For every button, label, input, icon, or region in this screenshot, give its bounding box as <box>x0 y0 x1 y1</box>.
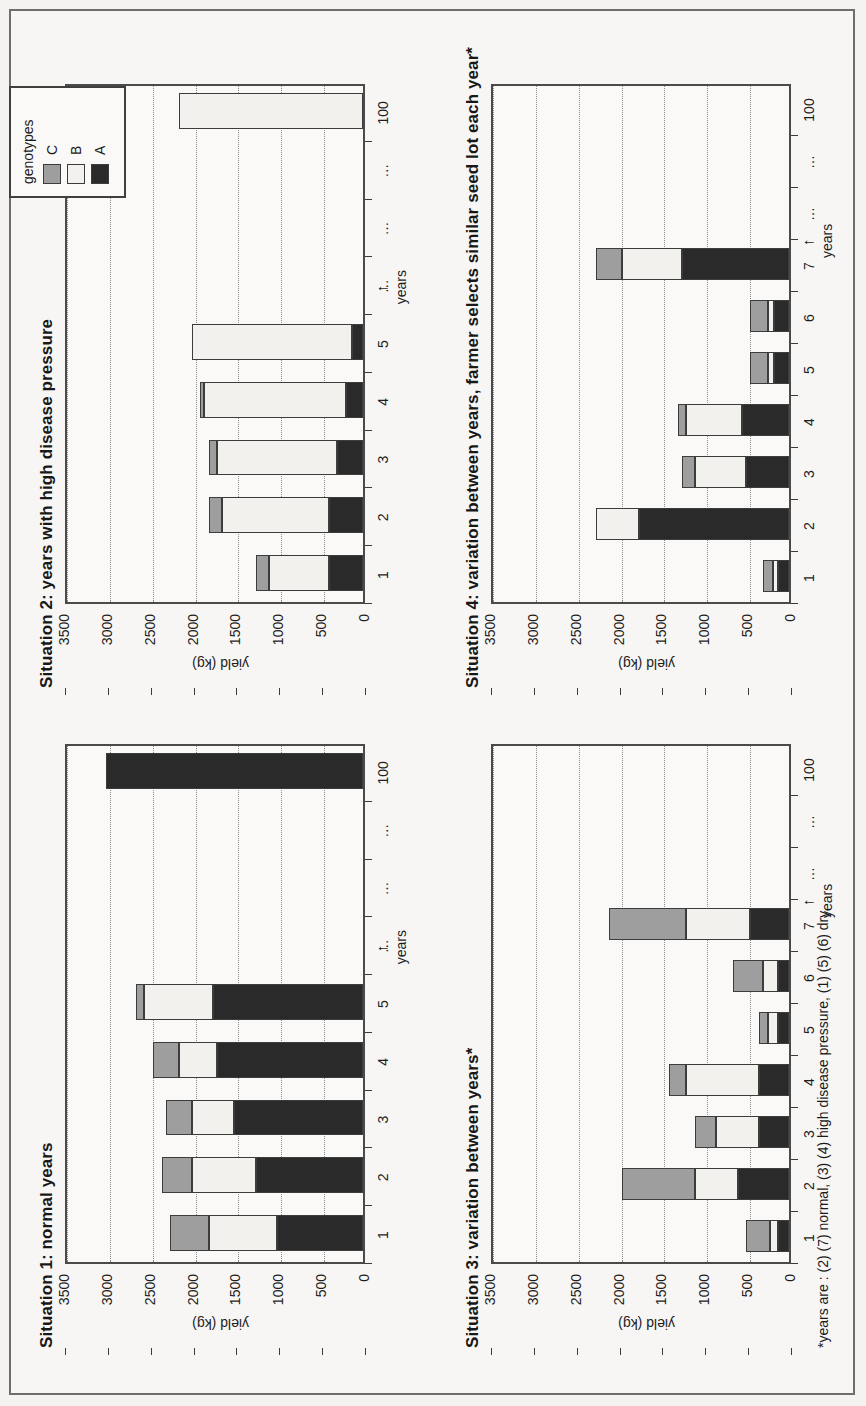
bar-segment-A <box>256 1157 363 1193</box>
y-tick-label: 2500 <box>142 1274 158 1318</box>
bar-segment-A <box>682 248 789 280</box>
y-tick-mark <box>620 1348 621 1355</box>
bar-segment-C <box>746 1220 770 1252</box>
bar-segment-B <box>770 1220 778 1252</box>
x-tick-mark <box>365 372 372 373</box>
x-tick-mark <box>365 1090 372 1091</box>
bar-segment-B <box>622 248 682 280</box>
y-tick-label: 3000 <box>525 614 541 658</box>
bar-4 <box>489 1064 789 1096</box>
x-axis-label: years <box>393 930 409 964</box>
plot-area-situation-4 <box>491 84 791 604</box>
bar-segment-A <box>759 1116 789 1148</box>
bar-5 <box>63 984 363 1020</box>
bar-segment-C <box>209 497 222 533</box>
x-tick-mark <box>365 1032 372 1033</box>
y-tick-mark <box>279 688 280 695</box>
bar-segment-A <box>106 753 363 789</box>
panel-situation-4: Situation 4: variation between years, fa… <box>463 38 853 688</box>
legend: genotypes C B A <box>9 86 126 198</box>
bar-3 <box>63 1100 363 1136</box>
bar-6 <box>489 960 789 992</box>
bar-7 <box>489 908 789 940</box>
y-tick-label: 2500 <box>568 614 584 658</box>
x-tick-mark <box>365 603 372 604</box>
bar-segment-A <box>746 456 789 488</box>
bar-segment-A <box>639 508 789 540</box>
y-tick-label: 0 <box>356 1274 372 1318</box>
bar-4 <box>63 1042 363 1078</box>
x-tick-label: 7 <box>801 240 817 292</box>
bar-segment-C <box>759 1012 768 1044</box>
x-tick-mark <box>365 974 372 975</box>
x-tick-label: 5 <box>375 975 391 1033</box>
bar-segment-A <box>778 1220 789 1252</box>
plot-frame <box>491 84 791 604</box>
x-tick-mark <box>365 141 372 142</box>
bar-2 <box>63 497 363 533</box>
x-tick-label: 5 <box>801 344 817 396</box>
bar-2 <box>489 508 789 540</box>
bar-segment-A <box>213 984 363 1020</box>
bar-segment-C <box>256 555 269 591</box>
y-tick-mark <box>791 688 792 695</box>
x-tick-mark <box>365 256 372 257</box>
x-tick-mark <box>791 1211 798 1212</box>
bar-segment-A <box>277 1215 363 1251</box>
legend-label-c: C <box>44 145 60 155</box>
x-tick-label: … <box>375 860 391 918</box>
y-tick-label: 3000 <box>525 1274 541 1318</box>
y-tick-label: 3500 <box>482 614 498 658</box>
y-tick-label: 500 <box>313 614 329 658</box>
bar-segment-B <box>179 93 363 129</box>
panel-situation-3: Situation 3: variation between years* 05… <box>463 733 853 1348</box>
bar-segment-B <box>269 555 329 591</box>
bar-5 <box>63 324 363 360</box>
x-tick-mark <box>791 603 798 604</box>
x-tick-mark <box>365 487 372 488</box>
x-tick-mark <box>791 239 798 240</box>
bar-segment-A <box>774 300 789 332</box>
x-tick-mark <box>365 314 372 315</box>
bar-1 <box>63 555 363 591</box>
panel-situation-1: Situation 1: normal years 05001000150020… <box>37 733 427 1348</box>
y-tick-label: 1500 <box>653 1274 669 1318</box>
y-tick-mark <box>151 1348 152 1355</box>
bar-segment-B <box>695 1168 738 1200</box>
bar-segment-A <box>774 352 789 384</box>
x-tick-label: … <box>801 848 817 900</box>
y-tick-mark <box>322 688 323 695</box>
y-tick-label: 2000 <box>611 614 627 658</box>
y-tick-label: 1000 <box>270 614 286 658</box>
panel-title-situation-2: Situation 2: years with high disease pre… <box>37 319 57 688</box>
bar-segment-A <box>234 1100 363 1136</box>
x-tick-mark <box>791 951 798 952</box>
bar-segment-B <box>209 1215 278 1251</box>
x-tick-label: 3 <box>801 448 817 500</box>
x-tick-mark <box>791 499 798 500</box>
bar-3 <box>63 440 363 476</box>
bar-segment-C <box>750 352 768 384</box>
bar-segment-A <box>778 1012 789 1044</box>
x-tick-mark <box>365 199 372 200</box>
bar-segment-C <box>153 1042 179 1078</box>
bar-segment-A <box>778 560 789 592</box>
scanned-page: Situation 1: normal years 05001000150020… <box>0 0 866 1406</box>
y-tick-label: 3000 <box>99 1274 115 1318</box>
x-axis-label: years <box>393 270 409 304</box>
x-tick-mark <box>365 430 372 431</box>
x-tick-mark <box>791 1107 798 1108</box>
y-tick-mark <box>577 1348 578 1355</box>
bar-segment-C <box>678 404 687 436</box>
bar-segment-C <box>136 984 145 1020</box>
bar-2 <box>489 1168 789 1200</box>
bar-segment-B <box>686 1064 759 1096</box>
bar-segment-C <box>669 1064 686 1096</box>
bar-3 <box>489 456 789 488</box>
bar-segment-C <box>162 1157 192 1193</box>
y-tick-label: 2000 <box>185 1274 201 1318</box>
x-tick-label: 100 <box>375 84 391 142</box>
x-tick-mark <box>791 1159 798 1160</box>
bar-segment-C <box>609 908 686 940</box>
y-tick-label: 500 <box>313 1274 329 1318</box>
